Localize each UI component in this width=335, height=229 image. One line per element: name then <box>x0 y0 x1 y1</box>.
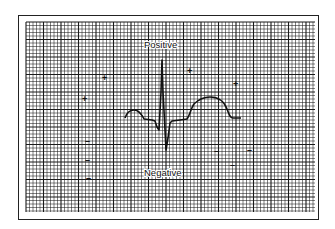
minus-marker: – <box>247 145 252 155</box>
minus-marker: – <box>85 155 90 165</box>
ecg-figure: Positive Negative ++++–––––– <box>0 0 335 229</box>
positive-label: Positive <box>144 39 177 50</box>
minus-marker: – <box>214 146 219 156</box>
minus-marker: – <box>85 136 90 146</box>
plus-marker: + <box>233 79 238 89</box>
ecg-grid <box>26 22 315 212</box>
minus-marker: – <box>230 160 235 170</box>
plus-marker: + <box>82 94 87 104</box>
negative-label: Negative <box>144 167 182 178</box>
minus-marker: – <box>86 173 91 183</box>
plus-marker: + <box>187 66 192 76</box>
plus-marker: + <box>102 73 107 83</box>
